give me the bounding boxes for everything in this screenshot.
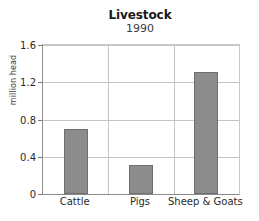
y-axis: 00.40.81.21.6 xyxy=(0,44,42,194)
x-axis-labels: CattlePigsSheep & Goats xyxy=(42,196,238,214)
plot-area xyxy=(42,44,240,195)
y-axis-tick-label: 1.6 xyxy=(20,40,36,51)
x-axis-category-label: Sheep & Goats xyxy=(168,196,243,207)
y-axis-tick-label: 0.4 xyxy=(20,151,36,162)
chart-subtitle: 1990 xyxy=(42,22,238,35)
y-axis-tick-label: 0 xyxy=(30,189,36,200)
bar xyxy=(194,72,218,194)
chart-figure: Livestock 1990 million head 00.40.81.21.… xyxy=(0,0,259,221)
x-axis-category-label: Pigs xyxy=(130,196,150,207)
chart-title: Livestock xyxy=(42,8,238,22)
bar xyxy=(64,129,88,194)
bars-layer xyxy=(43,45,239,194)
bar xyxy=(129,165,153,194)
y-axis-tick-label: 1.2 xyxy=(20,77,36,88)
y-axis-tick-label: 0.8 xyxy=(20,114,36,125)
x-axis-category-label: Cattle xyxy=(60,196,90,207)
title-block: Livestock 1990 xyxy=(42,8,238,35)
